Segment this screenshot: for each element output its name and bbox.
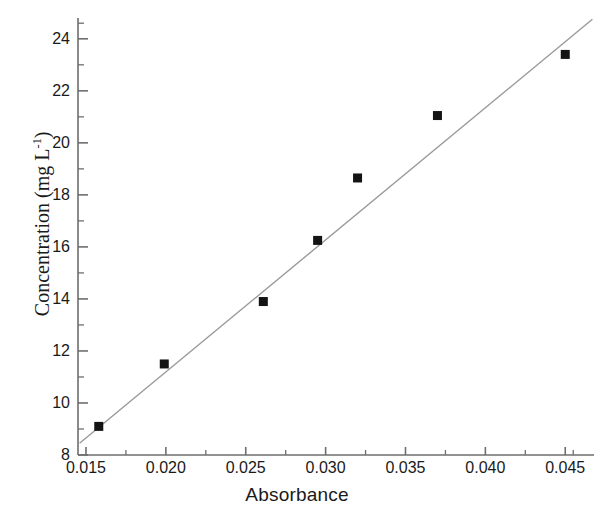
fit-line [80, 19, 593, 443]
y-axis-title-exponent: -1 [30, 138, 44, 148]
regression-line [80, 19, 593, 443]
y-tick-label: 10 [34, 394, 70, 412]
x-tick-label: 0.020 [146, 459, 186, 477]
x-tick-label: 0.045 [545, 459, 585, 477]
plot-canvas [0, 0, 594, 510]
axes-group [78, 18, 594, 455]
y-axis-title: Concentration (mg L-1) [30, 94, 54, 354]
x-axis-title: Absorbance [0, 484, 594, 506]
x-tick-label: 0.040 [465, 459, 505, 477]
y-axis-title-tail: ) [31, 131, 53, 138]
x-tick-label: 0.015 [66, 459, 106, 477]
data-point-marker [259, 297, 268, 306]
x-tick-label: 0.025 [226, 459, 266, 477]
y-axis-title-base: Concentration (mg L [31, 148, 53, 316]
data-point-series [94, 50, 569, 431]
data-point-marker [160, 359, 169, 368]
x-tick-label: 0.035 [385, 459, 425, 477]
data-point-marker [94, 422, 103, 431]
y-tick-label: 24 [34, 30, 70, 48]
data-point-marker [353, 173, 362, 182]
data-point-marker [313, 236, 322, 245]
x-tick-label: 0.030 [306, 459, 346, 477]
y-axis-minor-ticks [78, 23, 84, 429]
chart-figure: 0.0150.0200.0250.0300.0350.0400.045 8101… [0, 0, 594, 510]
data-point-marker [561, 50, 570, 59]
y-axis-major-ticks [78, 39, 88, 455]
x-axis-major-ticks [86, 447, 565, 455]
y-tick-label: 8 [34, 446, 70, 464]
data-point-marker [433, 111, 442, 120]
